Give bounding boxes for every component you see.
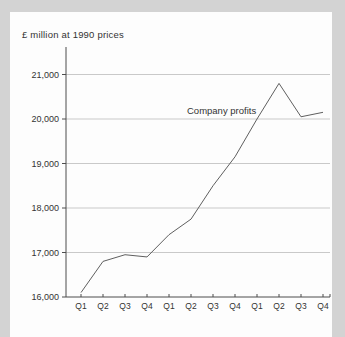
x-tick-label: Q3 [119, 301, 131, 311]
x-tick-label: Q1 [163, 301, 175, 311]
x-tick-label: Q2 [185, 301, 197, 311]
x-tick-label: Q2 [273, 301, 285, 311]
x-tick-label: Q4 [141, 301, 153, 311]
x-tick-label: Q3 [295, 301, 307, 311]
y-tick-label: 19,000 [31, 159, 59, 169]
y-tick-label: 20,000 [31, 114, 59, 124]
y-tick-label: 17,000 [31, 248, 59, 258]
y-tick-label: 21,000 [31, 70, 59, 80]
x-tick-label: Q1 [75, 301, 87, 311]
x-tick-label: Q4 [317, 301, 329, 311]
chart-panel: £ million at 1990 prices 16,00017,00018,… [10, 12, 332, 337]
x-tick-label: Q1 [251, 301, 263, 311]
x-tick-label: Q2 [97, 301, 109, 311]
y-tick-label: 16,000 [31, 292, 59, 302]
series-label: Company profits [187, 105, 256, 116]
chart-canvas: 16,00017,00018,00019,00020,00021,000Q1Q2… [10, 12, 332, 337]
y-tick-label: 18,000 [31, 203, 59, 213]
x-tick-label: Q4 [229, 301, 241, 311]
screenshot-root: { "colors": { "background": "#d3d3d3", "… [0, 0, 345, 337]
x-tick-label: Q3 [207, 301, 219, 311]
